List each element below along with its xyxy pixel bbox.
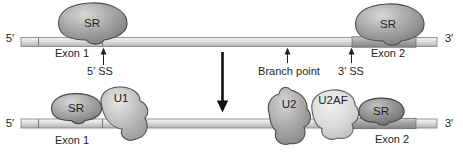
bottom-5-prime-label: 5′ xyxy=(6,117,15,129)
branch-point-label: Branch point xyxy=(258,65,320,77)
ss5-pointer-arrow xyxy=(101,48,107,66)
top-5-prime-label: 5′ xyxy=(6,32,15,44)
process-down-arrow xyxy=(217,52,228,113)
top-pre-mrna: 5′ 3′ SR SR Exon 1 Exon 2 5′ SS Branch p… xyxy=(6,3,454,77)
figure-rna-splicing-diagram: 5′ 3′ SR SR Exon 1 Exon 2 5′ SS Branch p… xyxy=(0,0,463,152)
bottom-3-prime-label: 3′ xyxy=(445,117,454,129)
u2-label: U2 xyxy=(282,98,297,110)
bottom-sr-right-label: SR xyxy=(373,105,389,117)
ss3-label: 3′ SS xyxy=(338,65,364,77)
bottom-pre-mrna-with-factors: 5′ 3′ SR U1 U2 U2AF SR Exon 1 Exon 2 xyxy=(6,87,454,146)
branch-point-pointer-arrow xyxy=(285,48,291,64)
bottom-sr-left-label: SR xyxy=(68,102,84,114)
top-3-prime-label: 3′ xyxy=(445,32,454,44)
u2af-label: U2AF xyxy=(318,94,347,106)
top-sr-left-label: SR xyxy=(84,17,100,29)
splicing-diagram-canvas: 5′ 3′ SR SR Exon 1 Exon 2 5′ SS Branch p… xyxy=(0,0,463,152)
bottom-exon1-label: Exon 1 xyxy=(55,134,89,146)
ss5-label: 5′ SS xyxy=(87,65,113,77)
ss3-pointer-arrow xyxy=(349,48,355,64)
top-sr-right-label: SR xyxy=(380,18,396,30)
u1-label: U1 xyxy=(114,92,129,104)
top-exon1-label: Exon 1 xyxy=(55,47,89,59)
top-exon2-label: Exon 2 xyxy=(371,47,405,59)
u2-snrnp-blob xyxy=(268,87,310,144)
bottom-exon2-label: Exon 2 xyxy=(375,133,409,145)
